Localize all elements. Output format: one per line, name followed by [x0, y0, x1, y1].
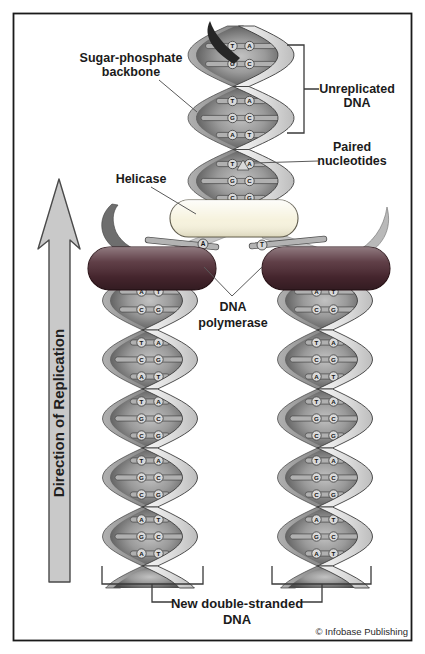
fork-base-left: A [201, 240, 206, 247]
base-pair-rung [216, 132, 266, 137]
base-letter: C [156, 474, 161, 481]
base-letter: G [331, 356, 336, 363]
base-pair-rung [295, 307, 356, 312]
base-letter: C [156, 415, 161, 422]
base-pair-rung [115, 357, 185, 362]
helicase-capsule-sheen [170, 200, 298, 237]
base-letter: G [314, 474, 319, 481]
base-pair-rung [290, 534, 360, 539]
base-letter: G [331, 491, 336, 498]
base-letter: C [314, 491, 319, 498]
base-letter: T [315, 339, 319, 346]
base-letter: A [331, 339, 336, 346]
base-letter: A [314, 516, 319, 523]
base-letter: A [247, 42, 252, 49]
copyright-notice: © Infobase Publishing [315, 626, 408, 637]
new-dna-line2: DNA [223, 612, 252, 627]
base-letter: T [140, 339, 144, 346]
base-pair-rung [216, 98, 266, 103]
polymerase-line1: DNA [219, 300, 246, 314]
base-pair-rung [290, 357, 360, 362]
base-letter: G [314, 415, 319, 422]
base-letter: C [331, 415, 336, 422]
base-letter: C [331, 474, 336, 481]
base-letter: A [156, 339, 161, 346]
base-letter: T [231, 160, 235, 167]
base-letter: G [230, 177, 235, 184]
base-pair-rung [115, 534, 185, 539]
base-letter: T [231, 42, 235, 49]
base-letter: T [140, 398, 144, 405]
base-letter: G [139, 533, 144, 540]
unreplicated-dna-helix: TAGCTAGCATTAGCCG [188, 26, 294, 210]
base-pair-rung [115, 475, 185, 480]
base-letter: A [247, 97, 252, 104]
base-letter: C [331, 533, 336, 540]
base-letter: A [230, 131, 235, 138]
base-letter: C [314, 356, 319, 363]
new-dna-line1: New double-stranded [171, 596, 303, 611]
paired-line1: Paired [333, 140, 371, 154]
label-helicase: Helicase [116, 172, 167, 186]
base-letter: G [156, 491, 161, 498]
base-letter: C [247, 60, 252, 67]
base-letter: C [156, 533, 161, 540]
polymerase-capsule-right-sheen [262, 247, 390, 290]
new-dna-helix-left: ATCGTACGATTAGCCGTAGCCGATGCAT [103, 252, 198, 588]
base-letter: C [247, 177, 252, 184]
base-letter: C [139, 432, 144, 439]
paired-line2: nucleotides [317, 154, 387, 168]
base-pair-rung [201, 115, 281, 120]
base-letter: T [332, 516, 336, 523]
helicase-enzyme [170, 200, 298, 237]
polymerase-capsule-left-sheen [88, 247, 216, 290]
unreplicated-line2: DNA [343, 96, 370, 110]
base-letter: G [156, 306, 161, 313]
sugar-phosphate-line1: Sugar-phosphate [80, 51, 183, 65]
base-letter: T [140, 457, 144, 464]
base-letter: G [331, 306, 336, 313]
base-letter: C [314, 432, 319, 439]
new-dna-helix-right: ATCGTACGATTAGCCGTAGCCGATGCAT [278, 252, 373, 588]
base-letter: T [157, 550, 161, 557]
dna-replication-figure: Direction of Replication TAGCTAGCATTAGCC… [0, 0, 425, 654]
base-letter: A [139, 373, 144, 380]
base-letter: A [314, 373, 319, 380]
diagram-canvas: Direction of Replication TAGCTAGCATTAGCC… [0, 0, 425, 654]
base-letter: C [139, 306, 144, 313]
dna-polymerase-left [88, 247, 216, 290]
base-letter: A [156, 457, 161, 464]
base-letter: T [315, 457, 319, 464]
unreplicated-line1: Unreplicated [319, 82, 395, 96]
base-letter: A [331, 398, 336, 405]
base-letter: C [314, 306, 319, 313]
base-letter: A [156, 398, 161, 405]
base-pair-rung [201, 178, 281, 183]
direction-arrow-label: Direction of Replication [50, 329, 67, 497]
base-letter: T [248, 131, 252, 138]
base-letter: G [156, 432, 161, 439]
polymerase-line2: polymerase [198, 316, 268, 330]
base-letter: A [139, 550, 144, 557]
base-pair-rung [120, 307, 181, 312]
dna-polymerase-right [262, 247, 390, 290]
base-letter: G [139, 415, 144, 422]
base-letter: T [231, 97, 235, 104]
base-letter: C [139, 491, 144, 498]
base-letter: G [230, 114, 235, 121]
base-letter: G [314, 533, 319, 540]
base-letter: G [139, 474, 144, 481]
base-letter: T [332, 550, 336, 557]
fork-base-right: T [260, 241, 264, 248]
base-pair-rung [206, 61, 277, 66]
sugar-phosphate-line2: backbone [102, 65, 160, 79]
base-letter: A [139, 516, 144, 523]
base-letter: C [139, 356, 144, 363]
base-letter: T [332, 373, 336, 380]
base-letter: G [156, 356, 161, 363]
base-letter: T [157, 373, 161, 380]
base-letter: A [314, 550, 319, 557]
base-letter: T [157, 516, 161, 523]
base-letter: A [247, 160, 252, 167]
base-pair-rung [290, 416, 360, 421]
